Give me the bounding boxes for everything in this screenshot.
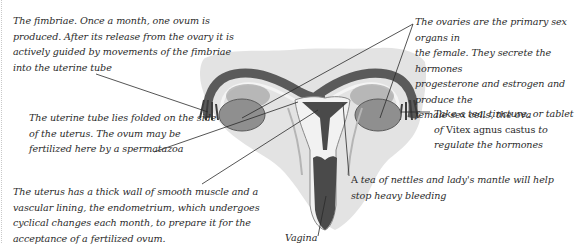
label-fimbriae: The fimbriae. Once a month, one ovum is … bbox=[13, 13, 234, 75]
vitex-line-1: Take a tea, tincture, or tablet bbox=[434, 106, 574, 122]
vitex-plant-name: Vitex agnus castus bbox=[446, 124, 535, 135]
nettles-text: tea of nettles and lady's mantle will he… bbox=[361, 174, 554, 185]
left-ovary bbox=[219, 99, 265, 131]
label-vitex: Take a tea, tincture, or tablet of Vitex… bbox=[434, 106, 574, 153]
label-nettles: A tea of nettles and lady's mantle will … bbox=[351, 172, 554, 203]
nettles-article: A bbox=[351, 174, 361, 185]
vitex-to: to bbox=[535, 124, 547, 135]
vitex-of: of bbox=[434, 124, 446, 135]
nettles-line-1: A tea of nettles and lady's mantle will … bbox=[351, 172, 554, 188]
right-ovary bbox=[355, 99, 401, 131]
label-uterine-tube: The uterine tube lies folded on the side… bbox=[29, 110, 216, 157]
label-uterus: The uterus has a thick wall of smooth mu… bbox=[13, 184, 259, 246]
vitex-line-2: of Vitex agnus castus to bbox=[434, 122, 574, 138]
label-vagina: Vagina bbox=[285, 230, 317, 246]
leader-fimbriae bbox=[96, 74, 208, 112]
nettles-line-2: stop heavy bleeding bbox=[351, 188, 554, 204]
vitex-line-3: regulate the hormones bbox=[434, 137, 574, 153]
